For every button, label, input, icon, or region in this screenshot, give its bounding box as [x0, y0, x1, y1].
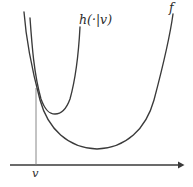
objective-label: f [169, 2, 174, 15]
objective-curve-f [24, 12, 173, 149]
x-axis-arrowhead-icon [178, 162, 185, 169]
plot-svg [0, 0, 193, 187]
surrogate-curve-h [30, 18, 80, 114]
figure-container: h(·|v) f v [0, 0, 193, 187]
point-label-v: v [32, 168, 39, 180]
surrogate-label: h(·|v) [79, 14, 112, 27]
